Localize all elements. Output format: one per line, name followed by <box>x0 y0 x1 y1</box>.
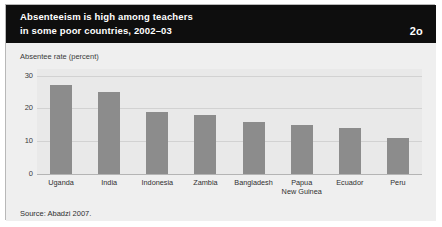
x-axis-label-zambia: Zambia <box>181 178 229 187</box>
bar-slot <box>181 69 229 174</box>
x-axis-label-line: Ecuador <box>336 178 363 187</box>
bar-series <box>37 69 422 174</box>
figure-title: Absenteeism is high among teachers in so… <box>20 10 320 37</box>
x-axis-label-indonesia: Indonesia <box>133 178 181 187</box>
figure-title-line-1: Absenteeism is high among teachers <box>20 10 320 24</box>
bar-slot <box>37 69 85 174</box>
y-axis-tick-label: 20 <box>15 103 33 112</box>
bar-slot <box>133 69 181 174</box>
bar-slot <box>326 69 374 174</box>
figure-title-line-2: in some poor countries, 2002–03 <box>20 24 320 38</box>
chart-body: Absentee rate (percent) 102030 0 UgandaI… <box>6 43 436 221</box>
bar-bangladesh[interactable] <box>243 122 265 175</box>
x-axis-label-uganda: Uganda <box>37 178 85 187</box>
source-note: Source: Abadzi 2007. <box>20 209 91 218</box>
axis-baseline <box>37 174 422 175</box>
x-axis-label-line: Papua <box>291 178 312 187</box>
x-axis-label-line: Indonesia <box>141 178 173 187</box>
x-axis-label-india: India <box>85 178 133 187</box>
y-axis-title: Absentee rate (percent) <box>20 52 99 61</box>
y-axis-tick-0: 0 <box>15 169 33 178</box>
figure-card: Absenteeism is high among teachers in so… <box>5 4 435 220</box>
figure-number: 2o <box>410 25 423 37</box>
x-axis-label-line: India <box>101 178 117 187</box>
y-axis-tick-label: 10 <box>15 136 33 145</box>
bar-slot <box>230 69 278 174</box>
x-axis-label-line: New Guinea <box>278 187 326 196</box>
bar-zambia[interactable] <box>194 115 216 174</box>
x-axis-label-peru: Peru <box>374 178 422 187</box>
x-axis-label-line: Zambia <box>193 178 217 187</box>
bar-papua-new-guinea[interactable] <box>291 125 313 174</box>
x-axis-label-ecuador: Ecuador <box>326 178 374 187</box>
bar-ecuador[interactable] <box>339 128 361 174</box>
bar-uganda[interactable] <box>50 85 72 174</box>
bar-slot <box>374 69 422 174</box>
bar-slot <box>278 69 326 174</box>
x-axis-label-line: Bangladesh <box>234 178 273 187</box>
bar-peru[interactable] <box>387 138 409 174</box>
bar-india[interactable] <box>98 92 120 174</box>
x-axis-label-papua-new-guinea: PapuaNew Guinea <box>278 178 326 196</box>
figure-header-bar: Absenteeism is high among teachers in so… <box>6 5 436 43</box>
bar-slot <box>85 69 133 174</box>
y-axis-tick-label: 30 <box>15 71 33 80</box>
x-axis-label-line: Peru <box>390 178 405 187</box>
x-axis-label-bangladesh: Bangladesh <box>230 178 278 187</box>
x-axis-labels: UgandaIndiaIndonesiaZambiaBangladeshPapu… <box>37 178 422 204</box>
x-axis-label-line: Uganda <box>48 178 74 187</box>
bar-indonesia[interactable] <box>146 112 168 174</box>
